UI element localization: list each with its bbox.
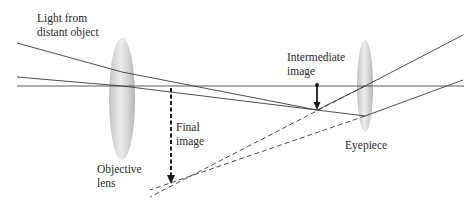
light-source-label: Light from distant object: [37, 12, 99, 39]
ray-middle: [17, 77, 463, 116]
objective-lens: [109, 38, 135, 160]
final-line2: image: [176, 135, 204, 149]
eyepiece-text: Eyepiece: [345, 139, 387, 153]
final-image-label: Final image: [176, 121, 204, 148]
intermediate-image-arrow: [314, 83, 321, 110]
light-source-line2: distant object: [37, 26, 99, 40]
intermediate-image-label: Intermediate image: [287, 51, 345, 78]
final-line1: Final: [176, 121, 204, 135]
compound-microscope-diagram: Light from distant object Intermediate i…: [0, 0, 470, 213]
objective-lens-label: Objective lens: [97, 163, 142, 190]
objective-line2: lens: [97, 177, 142, 191]
ray-top: [17, 35, 463, 110]
intermediate-line1: Intermediate: [287, 51, 345, 65]
final-image-arrow: [167, 88, 175, 184]
eyepiece-label: Eyepiece: [345, 139, 387, 153]
light-source-line1: Light from: [37, 12, 99, 26]
objective-line1: Objective: [97, 163, 142, 177]
intermediate-line2: image: [287, 65, 345, 79]
